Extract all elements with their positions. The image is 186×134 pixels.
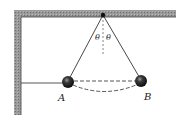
pivot-point [101, 13, 105, 17]
pendulum-diagram: θ θ A B [0, 0, 186, 134]
left-wall [14, 10, 21, 115]
angle-label-left: θ [95, 33, 100, 42]
ball-a [62, 76, 74, 88]
label-b: B [143, 91, 151, 102]
angle-label-right: θ [106, 33, 111, 42]
ball-b [135, 75, 147, 87]
string-to-a [68, 15, 103, 81]
string-to-b [103, 15, 141, 80]
label-a: A [57, 92, 65, 103]
dashed-arc [73, 85, 136, 92]
ceiling-support [14, 10, 176, 17]
